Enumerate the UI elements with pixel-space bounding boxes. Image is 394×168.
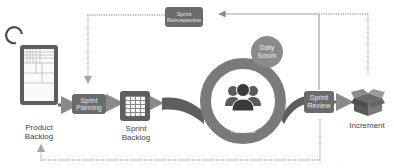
team-icon [224,82,262,112]
product-backlog-icon [20,45,58,105]
edge-increment-to-retro [320,14,368,74]
product-backlog-label: Product Backlog [16,123,62,141]
edge-retro-to-planning [88,15,165,80]
scrum-team-label: 7 Scrum Team [220,130,266,134]
sprint-backlog-label: Sprint Backlog [113,124,159,142]
loop-arrow-icon [6,27,22,43]
footer-text: ... [336,160,340,166]
sprint-retrospective-node: Sprint Retrospective [165,7,203,27]
sprint-review-node: Sprint Review [304,91,334,113]
sprint-planning-node: Sprint Planning [72,94,106,114]
increment-label: Increment [340,121,394,130]
sprint-backlog-icon [120,91,150,121]
box-icon [351,89,385,117]
daily-scrum-node: Daily Scrum [251,36,283,68]
sprint-retrospective-label-2: Retrospective [167,17,201,24]
